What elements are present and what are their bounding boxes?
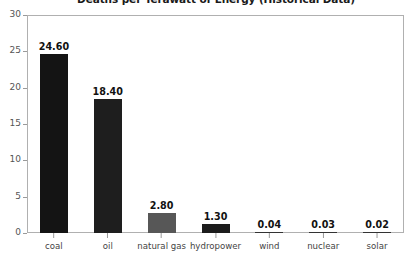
y-tick-label: 5 bbox=[15, 191, 21, 201]
bar-value-label: 2.80 bbox=[150, 200, 174, 211]
x-axis-tick: coal bbox=[45, 233, 63, 251]
bar-hydropower[interactable]: 1.30 bbox=[202, 224, 230, 233]
bar-coal[interactable]: 24.60 bbox=[40, 54, 68, 233]
x-tick-label: hydropower bbox=[190, 241, 241, 251]
x-axis-tick: hydropower bbox=[190, 233, 241, 251]
y-axis: 051015202530 bbox=[0, 15, 27, 234]
x-tick-line bbox=[269, 233, 270, 238]
x-tick-line bbox=[107, 233, 108, 238]
bar-value-label: 24.60 bbox=[39, 41, 69, 52]
chart-title: Deaths per Terawatt of Energy (Historica… bbox=[27, 0, 405, 5]
bar-rect bbox=[40, 54, 68, 233]
bar-natural-gas[interactable]: 2.80 bbox=[148, 213, 176, 233]
y-tick-label: 15 bbox=[10, 118, 21, 128]
x-axis-tick: natural gas bbox=[137, 233, 186, 251]
bar-rect bbox=[94, 99, 122, 233]
y-tick-label: 20 bbox=[10, 82, 21, 92]
x-axis-tick: wind bbox=[259, 233, 279, 251]
x-tick-line bbox=[53, 233, 54, 238]
y-tick-label: 30 bbox=[10, 9, 21, 19]
x-tick-label: coal bbox=[45, 241, 63, 251]
x-axis-tick: solar bbox=[367, 233, 388, 251]
bar-value-label: 18.40 bbox=[93, 86, 123, 97]
bar-value-label: 1.30 bbox=[204, 211, 228, 222]
bar-oil[interactable]: 18.40 bbox=[94, 99, 122, 233]
y-tick-label: 25 bbox=[10, 45, 21, 55]
bar-value-label: 0.03 bbox=[311, 219, 335, 230]
bar-rect bbox=[148, 213, 176, 233]
x-tick-line bbox=[161, 233, 162, 238]
y-tick-label: 0 bbox=[15, 227, 21, 237]
x-tick-line bbox=[377, 233, 378, 238]
x-tick-label: solar bbox=[367, 241, 388, 251]
bar-value-label: 0.02 bbox=[365, 219, 389, 230]
x-tick-label: natural gas bbox=[137, 241, 186, 251]
x-tick-label: wind bbox=[259, 241, 279, 251]
x-tick-line bbox=[215, 233, 216, 238]
x-axis: coaloilnatural gashydropowerwindnuclears… bbox=[27, 233, 404, 264]
bar-value-label: 0.04 bbox=[258, 219, 282, 230]
x-tick-label: oil bbox=[103, 241, 113, 251]
x-tick-line bbox=[323, 233, 324, 238]
bar-chart: Deaths per Terawatt of Energy (Historica… bbox=[0, 0, 416, 264]
x-tick-label: nuclear bbox=[307, 241, 339, 251]
bar-rect bbox=[202, 224, 230, 233]
x-axis-tick: oil bbox=[103, 233, 113, 251]
y-tick-label: 10 bbox=[10, 154, 21, 164]
bars-layer: 24.6018.402.801.300.040.030.02 bbox=[27, 15, 404, 233]
x-axis-tick: nuclear bbox=[307, 233, 339, 251]
